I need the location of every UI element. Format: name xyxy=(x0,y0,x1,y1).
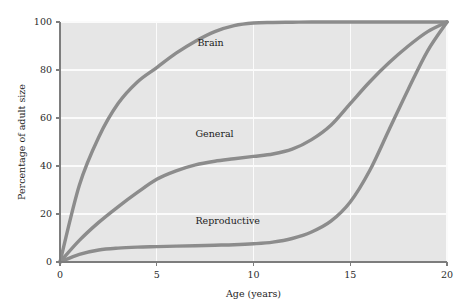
series-label-reproductive: Reproductive xyxy=(195,215,260,226)
chart-svg: 020406080100 05101520 BrainGeneralReprod… xyxy=(0,0,465,308)
y-tick-label: 100 xyxy=(34,16,52,27)
y-tick-label: 0 xyxy=(46,256,52,267)
series-label-general: General xyxy=(195,128,233,139)
series-label-brain: Brain xyxy=(197,37,223,48)
y-axis-ticks: 020406080100 xyxy=(34,16,60,267)
y-tick-label: 60 xyxy=(40,112,52,123)
x-tick-label: 0 xyxy=(57,269,63,280)
x-tick-label: 10 xyxy=(247,269,259,280)
y-tick-label: 40 xyxy=(40,160,52,171)
x-tick-label: 20 xyxy=(441,269,453,280)
y-tick-label: 80 xyxy=(40,64,52,75)
x-axis-ticks: 05101520 xyxy=(57,262,453,280)
x-axis-title: Age (years) xyxy=(225,288,281,299)
y-tick-label: 20 xyxy=(40,208,52,219)
x-tick-label: 15 xyxy=(344,269,356,280)
x-tick-label: 5 xyxy=(154,269,160,280)
growth-curves-figure: 020406080100 05101520 BrainGeneralReprod… xyxy=(0,0,465,308)
y-axis-title: Percentage of adult size xyxy=(16,84,27,200)
